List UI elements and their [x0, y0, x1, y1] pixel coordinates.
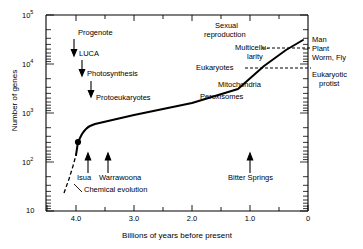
down-arrow-group — [71, 39, 93, 97]
annotation-progenote: Progenote — [78, 29, 113, 38]
ytick-label-10: 10 — [26, 206, 34, 215]
ytick-label-100: 102 — [22, 156, 33, 167]
x-axis-ticks-top — [76, 15, 279, 21]
annotation-protoeukaryotes: Protoeukaryotes — [96, 94, 151, 103]
right-label-worm-fly: Worm, Fly — [312, 54, 346, 63]
right-label-protist: protist — [319, 80, 339, 89]
data-point-marker — [75, 139, 81, 145]
annotation-eukaryotes: Eukaryotes — [196, 64, 234, 73]
annotation-photosynthesis: Photosynthesis — [87, 70, 138, 79]
xtick-label-1: 1.0 — [240, 214, 260, 223]
annotation-multicellularity-line2: larity — [247, 53, 263, 62]
y-axis-ticks — [46, 15, 54, 211]
gene-number-evolution-chart: 105 104 103 102 10 4.0 3.0 2.0 1.0 0 Num… — [0, 0, 363, 249]
chemical-evolution-leader-line — [74, 184, 82, 192]
annotation-chemical-evolution: Chemical evolution — [84, 186, 147, 195]
annotation-bitter-springs: Bitter Springs — [228, 174, 273, 183]
x-axis-ticks-bottom — [47, 205, 308, 211]
ytick-label-1000: 103 — [22, 107, 33, 118]
xtick-label-4: 4.0 — [66, 214, 86, 223]
annotation-warrawoona: Warrawoona — [99, 174, 141, 183]
up-arrow-group — [85, 153, 252, 173]
chemical-evolution-dashed-curve — [64, 155, 76, 193]
annotation-mitochondria: Mitochondria — [218, 81, 261, 90]
xtick-label-0: 0 — [302, 214, 314, 223]
xtick-label-3: 3.0 — [124, 214, 144, 223]
y-axis-title: Number of genes — [10, 61, 19, 141]
chart-canvas — [0, 0, 363, 249]
annotation-luca: LUCA — [79, 50, 99, 59]
annotation-reproduction: reproduction — [204, 31, 246, 40]
y-axis-ticks-right — [300, 15, 308, 211]
annotation-peroxisomes: Peroxisomes — [200, 93, 243, 102]
x-axis-title: Billions of years before present — [46, 231, 308, 240]
annotation-isua: Isua — [77, 174, 91, 183]
ytick-label-100000: 105 — [22, 9, 33, 20]
xtick-label-2: 2.0 — [182, 214, 202, 223]
ytick-label-10000: 104 — [22, 58, 33, 69]
